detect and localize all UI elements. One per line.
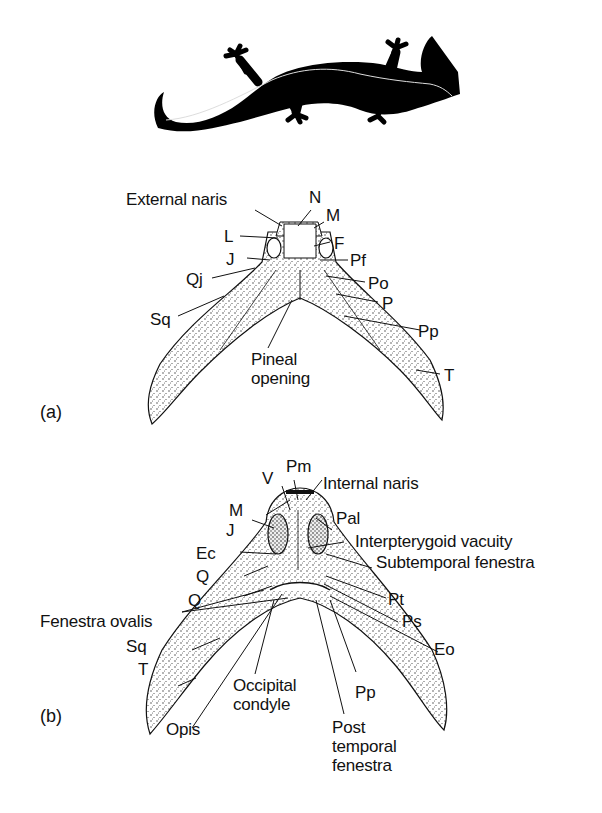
label-sq-b: Sq [126, 637, 146, 656]
label-external-naris: External naris [126, 190, 227, 209]
label-pp: Pp [418, 322, 438, 341]
label-t-b: T [138, 660, 148, 679]
label-m-b: M [229, 501, 243, 520]
label-sq: Sq [150, 310, 170, 329]
label-pal: Pal [336, 509, 360, 528]
label-p: P [382, 294, 393, 313]
label-t: T [444, 366, 454, 385]
label-opis: Opis [166, 720, 200, 739]
label-fenestra-ovalis: Fenestra ovalis [40, 612, 152, 631]
label-n: N [309, 188, 321, 207]
skull-dorsal-drawing [148, 222, 443, 424]
label-pt: Pt [388, 590, 404, 609]
label-ec: Ec [196, 544, 215, 563]
label-j: J [226, 250, 234, 269]
panel-label-a: (a) [40, 402, 62, 423]
label-q-upper: Q [196, 567, 209, 586]
label-eo: Eo [434, 640, 454, 659]
label-po: Po [368, 274, 388, 293]
label-pineal-opening: Pineal opening [251, 350, 310, 388]
label-f: F [334, 234, 344, 253]
label-qj: Qj [186, 270, 203, 289]
label-occipital-condyle: Occipital condyle [233, 676, 296, 714]
label-internal-naris: Internal naris [323, 474, 418, 493]
label-l: L [224, 227, 233, 246]
panel-label-b: (b) [40, 706, 62, 727]
salamander-silhouette-icon [154, 36, 460, 131]
label-pm: Pm [286, 457, 311, 476]
diagram-artwork [0, 0, 602, 813]
label-m: M [326, 206, 340, 225]
label-ps: Ps [402, 612, 421, 631]
label-pp-b: Pp [355, 683, 375, 702]
label-pf: Pf [350, 251, 366, 270]
label-j-b: J [226, 521, 234, 540]
label-interpterygoid-vacuity: Interpterygoid vacuity [355, 532, 512, 551]
label-q-lower: Q [188, 591, 201, 610]
label-post-temporal-fenestra: Post temporal fenestra [332, 718, 397, 775]
label-v: V [262, 469, 273, 488]
label-subtemporal-fenestra: Subtemporal fenestra [376, 553, 535, 572]
